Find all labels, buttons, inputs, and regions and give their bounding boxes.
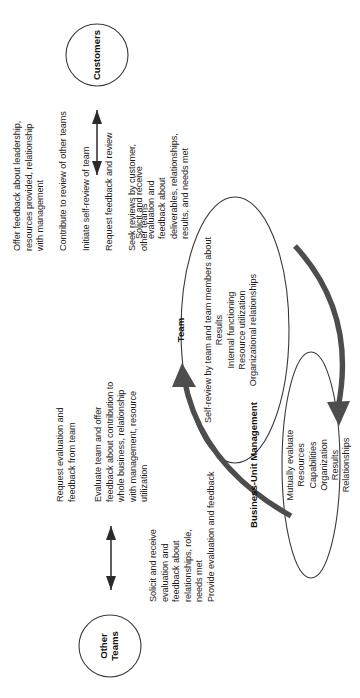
annotation-provide-evaluation: Provide evaluation and feedback	[206, 362, 218, 602]
annotation-evaluate-team: Evaluate team and offer feedback about c…	[93, 272, 151, 502]
annotation-customers-exchange: Solicit and receive evaluation and feedb…	[134, 9, 192, 239]
business-unit-management-body: Mutually evaluate Resources Capabilities…	[285, 379, 353, 551]
customers-label: Customers	[91, 9, 102, 101]
annotation-offer-feedback: Offer feedback about leadership,	[12, 37, 24, 251]
arrow-other-teams-double	[106, 526, 116, 590]
arrow-customers-double	[92, 110, 102, 175]
diagram-rotor: Business-Unit Management Mutually evalua…	[0, 0, 360, 698]
annotation-offer-feedback-line2: resources provided, relationship	[24, 37, 36, 251]
diagram-canvas: Business-Unit Management Mutually evalua…	[0, 0, 360, 698]
annotation-contribute-review: Contribute to review of other teams	[58, 29, 70, 251]
annotation-offer-feedback-line3: with management	[35, 37, 47, 251]
team-label: Team	[175, 283, 186, 377]
annotation-request-evaluation: Request evaluation and feedback from tea…	[55, 272, 78, 502]
annotation-request-feedback: Request feedback and review	[104, 29, 116, 251]
other-teams-label: Other Teams	[98, 610, 121, 682]
annotation-initiate-self-review: Initiate self-review of team	[81, 29, 93, 251]
annotation-other-teams-exchange: Solicit and receive evaluation and feedb…	[148, 372, 206, 602]
